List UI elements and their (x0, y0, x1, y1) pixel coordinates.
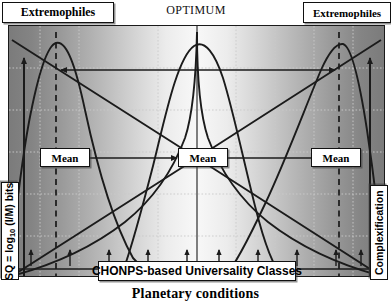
label-x-axis-planetary-conditions: Planetary conditions (0, 286, 391, 302)
sq-subscript: 10 (8, 228, 17, 236)
label-extremophiles-right: Extremophiles (303, 2, 391, 23)
sq-suffix: (I/M) bits (3, 182, 15, 228)
sq-prefix: SQ = log (3, 237, 15, 280)
label-optimum: OPTIMUM (146, 3, 246, 19)
label-mean-right: Mean (311, 148, 361, 167)
label-mean-center: Mean (178, 148, 228, 167)
label-chonps-universality-classes: CHONPS-based Universality Classes (98, 261, 296, 281)
label-y-axis-sq: SQ = log10 (I/M) bits (1, 182, 19, 280)
label-extremophiles-left: Extremophiles (2, 2, 114, 23)
label-mean-left: Mean (40, 148, 90, 167)
figure-canvas: Extremophiles Extremophiles OPTIMUM Mean… (0, 0, 391, 307)
label-y-axis-complexification: Complexification (370, 185, 388, 280)
